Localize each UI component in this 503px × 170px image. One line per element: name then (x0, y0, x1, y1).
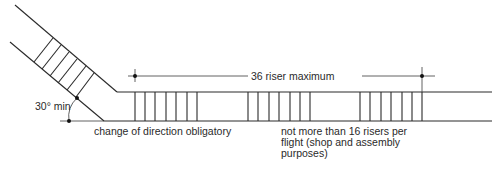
max-riser-label: 36 riser maximum (251, 70, 335, 82)
max-riser-dimension: 36 riser maximum (128, 67, 435, 92)
angled-upper-rail (15, 5, 117, 92)
dimension-dot-right (420, 74, 424, 78)
flight-limit-note-line3: purposes) (281, 147, 328, 159)
middle-flight (248, 92, 310, 121)
last-flight (360, 92, 422, 121)
angle-annotation: 30° min (35, 96, 104, 123)
direction-change-note: change of direction obligatory (94, 125, 232, 137)
stair-plan-diagram: 36 riser maximum 30° min change of direc… (0, 0, 503, 170)
first-horizontal-flight (135, 92, 197, 121)
angle-label: 30° min (35, 100, 71, 112)
dimension-dot-left (133, 74, 137, 78)
